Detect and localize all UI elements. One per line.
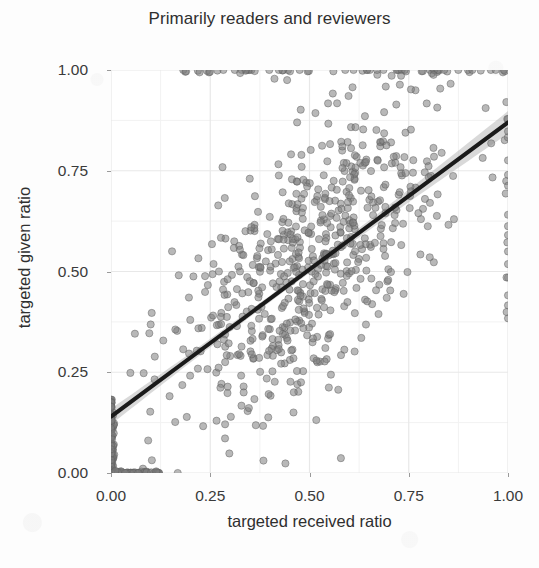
y-tick-label: 0.50	[58, 263, 88, 281]
plot-canvas	[111, 70, 508, 473]
y-tick-mark	[107, 171, 111, 172]
y-tick-label: 0.25	[58, 363, 88, 381]
y-tick-label: 0.00	[58, 464, 88, 482]
x-tick-mark	[210, 473, 211, 477]
x-axis-title: targeted received ratio	[111, 512, 508, 531]
chart-root: Primarily readers and reviewers 0.000.25…	[0, 0, 539, 568]
x-tick-mark	[409, 473, 410, 477]
x-tick-label: 1.00	[493, 487, 523, 505]
x-tick-mark	[310, 473, 311, 477]
y-tick-mark	[107, 70, 111, 71]
y-tick-label: 0.75	[58, 162, 88, 180]
x-tick-label: 0.00	[96, 487, 126, 505]
y-axis-title: targeted given ratio	[15, 148, 34, 368]
x-tick-label: 0.75	[394, 487, 424, 505]
y-tick-label: 1.00	[58, 61, 88, 79]
y-tick-mark	[107, 473, 111, 474]
plot-panel	[111, 70, 508, 473]
x-tick-label: 0.50	[294, 487, 324, 505]
x-tick-mark	[111, 473, 112, 477]
x-tick-mark	[508, 473, 509, 477]
y-tick-mark	[107, 372, 111, 373]
y-tick-mark	[107, 272, 111, 273]
x-tick-label: 0.25	[195, 487, 225, 505]
chart-title: Primarily readers and reviewers	[0, 9, 539, 29]
